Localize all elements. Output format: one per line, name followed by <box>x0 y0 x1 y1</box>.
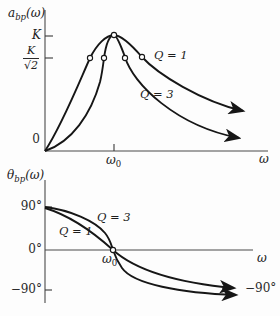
omega0-var-top: ω <box>106 153 116 167</box>
frac-numerator: K <box>23 45 39 59</box>
tick-label-90deg: 90° <box>16 200 42 213</box>
phase-axis-title: θbp(ω) <box>7 169 44 184</box>
tick-label-K-over-sqrt2: K √2 <box>19 45 43 71</box>
omega-label-top: ω <box>259 153 269 166</box>
phase-var-sub: bp <box>14 174 25 184</box>
halfpower-marker-q3-right <box>122 55 127 60</box>
omega0-sub-top: 0 <box>116 159 121 169</box>
q1-label-bottom: Q = 1 <box>59 225 93 238</box>
tick-label-neg90deg: −90° <box>8 283 42 296</box>
omega-label-bottom: ω <box>257 252 267 265</box>
q3-label-top: Q = 3 <box>140 88 174 101</box>
magnitude-var-sub: bp <box>15 12 26 22</box>
magnitude-var-arg: (ω) <box>26 6 45 20</box>
origin-label: 0 <box>26 133 40 146</box>
omega0-sub-bottom: 0 <box>112 258 117 268</box>
omega0-label-bottom: ω0 <box>102 253 117 268</box>
peak-marker <box>111 32 116 37</box>
omega0-var-bottom: ω <box>102 252 112 266</box>
q1-phase-curve <box>45 208 234 288</box>
halfpower-marker-q1-right <box>139 54 144 59</box>
tick-label-0deg: 0° <box>16 243 42 256</box>
magnitude-axis-title: abp(ω) <box>8 7 45 22</box>
frac-denominator: √2 <box>24 59 38 72</box>
halfpower-marker-q3-left <box>101 55 106 60</box>
q1-label-top: Q = 1 <box>154 49 188 62</box>
bandpass-response-figure: abp(ω) K K √2 0 ω0 ω Q = 1 Q = 3 θbp(ω) … <box>0 0 280 316</box>
q3-label-bottom: Q = 3 <box>97 211 131 224</box>
neg90-asymptote-label: −90° <box>245 282 276 295</box>
magnitude-plot <box>45 10 268 151</box>
omega0-label-top: ω0 <box>106 154 121 169</box>
phase-var-arg: (ω) <box>25 168 44 182</box>
tick-label-K: K <box>24 29 41 42</box>
phase-plot <box>45 180 253 303</box>
halfpower-marker-q1-left <box>87 55 92 60</box>
